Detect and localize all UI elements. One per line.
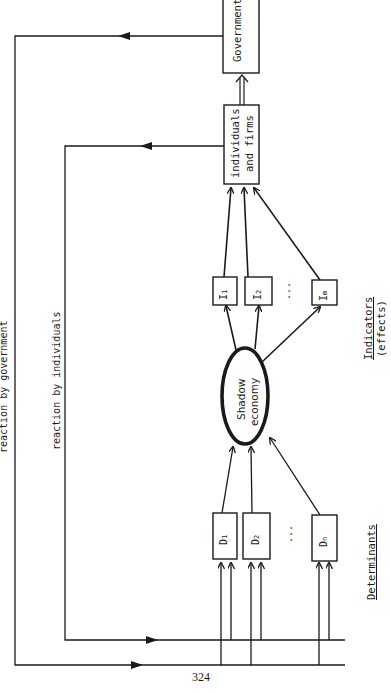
individuals-feedback-loop — [65, 142, 345, 644]
indicator-2-label: I2 — [253, 290, 263, 300]
determinant-n-label: Dn — [319, 537, 329, 547]
double-arrow-to-government — [236, 75, 248, 105]
page-number: 324 — [192, 670, 210, 685]
determinant-ellipsis: ... — [284, 525, 294, 543]
individuals-label-line2: and firms — [244, 115, 255, 172]
shadow-label-line2: economy — [249, 378, 260, 426]
shadow-label-line1: Shadow — [236, 379, 247, 420]
reaction-individuals-label: reaction by individuals — [52, 312, 62, 450]
indicator-ellipsis: ... — [282, 282, 292, 300]
indicator-m-label: Im — [319, 291, 329, 301]
determinants-heading: Determinants — [366, 524, 377, 600]
indicators-heading: Indicators — [363, 297, 374, 360]
indicators-subheading: (effects) — [376, 300, 387, 357]
determinant-input-arrows — [221, 563, 329, 665]
government-label: Government — [232, 0, 243, 62]
indicator-to-individuals-arrows — [224, 188, 320, 280]
determinant-1-label: D1 — [219, 535, 229, 545]
reaction-government-label: reaction by government — [0, 321, 9, 453]
determinant-2-label: D2 — [251, 535, 261, 545]
indicator-1-label: I1 — [219, 290, 229, 300]
determinant-to-shadow-arrows — [222, 438, 320, 515]
individuals-label-line1: individuals — [230, 108, 241, 178]
